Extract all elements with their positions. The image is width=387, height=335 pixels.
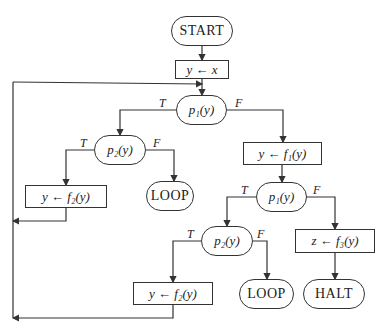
halt-node: HALT	[303, 279, 365, 309]
start-node: START	[171, 16, 233, 46]
p2-left-true-label: T	[80, 136, 87, 151]
assign-x-node: y ← x	[175, 60, 229, 79]
p1-top-true-label: T	[159, 96, 166, 111]
p1-mid-true-label: T	[241, 183, 248, 198]
p2-left-false-label: F	[153, 136, 160, 151]
p2-mid-false-label: F	[257, 227, 264, 242]
p2-left-decision: p₂(y)	[94, 135, 146, 165]
p2-mid-true-label: T	[187, 227, 194, 242]
f2-left-node: y ← f₂(y)	[25, 185, 107, 208]
p1-mid-decision: p₁(y)	[256, 182, 307, 212]
p1-top-false-label: F	[235, 96, 242, 111]
loop-left-node: LOOP	[146, 181, 194, 211]
p1-top-decision: p₁(y)	[176, 95, 227, 125]
f2-bottom-node: y ← f₂(y)	[133, 282, 213, 305]
f3-node: z ← f₃(y)	[295, 229, 375, 253]
p2-mid-decision: p₂(y)	[201, 226, 253, 256]
p1-mid-false-label: F	[313, 183, 320, 198]
f1-node: y ← f₁(y)	[243, 142, 322, 165]
loop-right-node: LOOP	[239, 279, 294, 309]
